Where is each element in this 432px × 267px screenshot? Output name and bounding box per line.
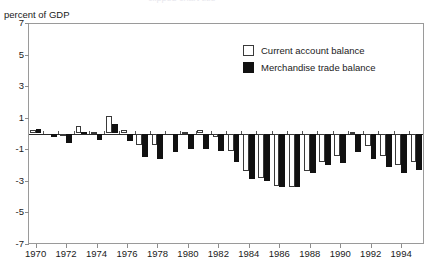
bar-merchandise-trade-1984 xyxy=(249,134,255,180)
y-tick-mark xyxy=(25,212,29,213)
legend-item-merchandise-trade: Merchandise trade balance xyxy=(243,59,376,76)
x-tick-label: 1978 xyxy=(140,249,174,259)
zero-line xyxy=(29,134,423,135)
bar-merchandise-trade-1981 xyxy=(203,134,209,150)
bar-merchandise-trade-1977 xyxy=(142,134,148,158)
y-tick-mark xyxy=(25,86,29,87)
y-tick-label: -7 xyxy=(0,239,24,249)
zero-axis-minor-tick xyxy=(256,131,257,134)
y-tick-mark xyxy=(25,181,29,182)
x-tick-label: 1980 xyxy=(171,249,205,259)
legend-swatch-merchandise-trade-icon xyxy=(243,62,254,73)
bar-merchandise-trade-1974 xyxy=(97,134,103,140)
bar-merchandise-trade-1986 xyxy=(279,134,285,188)
x-tick-label: 1988 xyxy=(293,249,327,259)
bar-merchandise-trade-1976 xyxy=(127,134,133,142)
zero-axis-minor-tick xyxy=(43,131,44,134)
bar-merchandise-trade-1973 xyxy=(81,132,87,134)
y-tick-mark xyxy=(25,149,29,150)
zero-axis-minor-tick xyxy=(317,131,318,134)
y-tick-label: -1 xyxy=(0,144,24,154)
y-tick-label: 3 xyxy=(0,81,24,91)
zero-axis-minor-tick xyxy=(241,131,242,134)
bar-merchandise-trade-1994 xyxy=(401,134,407,173)
legend-label-merchandise-trade: Merchandise trade balance xyxy=(261,62,376,73)
bar-merchandise-trade-1980 xyxy=(188,134,194,150)
bar-merchandise-trade-1988 xyxy=(310,134,316,173)
y-tick-label: -3 xyxy=(0,176,24,186)
y-tick-mark xyxy=(25,244,29,245)
bar-merchandise-trade-1975 xyxy=(112,124,118,133)
y-tick-label: 7 xyxy=(0,18,24,28)
bar-merchandise-trade-1971 xyxy=(51,134,57,137)
bar-merchandise-trade-1992 xyxy=(371,134,377,159)
x-tick-label: 1986 xyxy=(262,249,296,259)
y-tick-mark xyxy=(25,55,29,56)
zero-axis-minor-tick xyxy=(363,131,364,134)
y-tick-label: 1 xyxy=(0,113,24,123)
bar-merchandise-trade-1991 xyxy=(355,134,361,153)
legend-swatch-current-account-icon xyxy=(243,45,254,56)
clipped-title: clipped chart title xyxy=(148,0,318,4)
x-tick-label: 1992 xyxy=(354,249,388,259)
bar-merchandise-trade-1985 xyxy=(264,134,270,181)
legend-item-current-account: Current account balance xyxy=(243,42,376,59)
x-tick-label: 1990 xyxy=(323,249,357,259)
zero-axis-minor-tick xyxy=(302,131,303,134)
chart-legend: Current account balance Merchandise trad… xyxy=(243,42,376,76)
zero-axis-minor-tick xyxy=(378,131,379,134)
y-tick-mark xyxy=(25,23,29,24)
bar-merchandise-trade-1978 xyxy=(157,134,163,159)
bar-merchandise-trade-1983 xyxy=(234,134,240,162)
bar-merchandise-trade-1989 xyxy=(325,134,331,166)
x-tick-label: 1994 xyxy=(384,249,418,259)
zero-axis-minor-tick xyxy=(58,131,59,134)
bar-merchandise-trade-1990 xyxy=(340,134,346,164)
y-tick-label: -5 xyxy=(0,207,24,217)
bar-merchandise-trade-1993 xyxy=(386,134,392,167)
bar-merchandise-trade-1970 xyxy=(36,129,42,134)
x-tick-label: 1974 xyxy=(80,249,114,259)
x-tick-label: 1970 xyxy=(19,249,53,259)
zero-axis-minor-tick xyxy=(180,131,181,134)
bar-merchandise-trade-1982 xyxy=(218,134,224,151)
legend-label-current-account: Current account balance xyxy=(261,45,365,56)
x-tick-label: 1976 xyxy=(110,249,144,259)
y-tick-mark xyxy=(25,118,29,119)
zero-axis-minor-tick xyxy=(119,131,120,134)
y-tick-label: 5 xyxy=(0,50,24,60)
bar-merchandise-trade-1979 xyxy=(173,134,179,153)
zero-axis-minor-tick xyxy=(165,131,166,134)
bar-merchandise-trade-1995 xyxy=(416,134,422,170)
x-tick-label: 1972 xyxy=(49,249,83,259)
x-tick-label: 1982 xyxy=(201,249,235,259)
zero-axis-minor-tick xyxy=(104,131,105,134)
bar-merchandise-trade-1987 xyxy=(295,134,301,188)
x-tick-label: 1984 xyxy=(232,249,266,259)
bar-merchandise-trade-1972 xyxy=(66,134,72,143)
